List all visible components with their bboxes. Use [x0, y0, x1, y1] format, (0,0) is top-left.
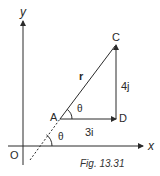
x-axis-label: x	[148, 140, 154, 152]
vector-diagram	[0, 0, 160, 176]
point-d-label: D	[119, 113, 127, 124]
figure-caption: Fig. 13.31	[80, 159, 124, 169]
y-axis-label: y	[20, 6, 26, 18]
angle-theta-at-x-axis: θ	[58, 132, 64, 142]
angle-arc-at-a	[67, 109, 72, 119]
point-a-label: A	[50, 112, 57, 123]
angle-theta-at-a: θ	[77, 104, 83, 114]
point-c-label: C	[112, 32, 120, 43]
dashed-extension-line	[30, 119, 60, 160]
origin-label: O	[10, 150, 19, 161]
vector-r	[60, 46, 115, 119]
vector-3i-label: 3i	[85, 127, 94, 138]
vector-4j-label: 4j	[121, 81, 130, 92]
vector-r-label: r	[79, 71, 83, 82]
